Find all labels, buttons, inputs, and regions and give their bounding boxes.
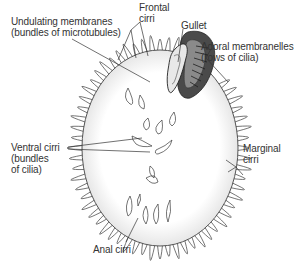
ciliate-illustration [0,0,301,261]
label-line: Gullet [181,20,207,31]
adoral-membranelles-label: Adoral membranelles (rows of cilia) [201,41,294,63]
ciliate-diagram: Undulating membranes (bundles of microtu… [0,0,301,261]
label-line: (bundles of microtubules) [11,27,121,38]
undulating-membranes-label: Undulating membranes (bundles of microtu… [11,16,121,38]
label-line: Ventral cirri [11,142,60,153]
label-line: Adoral membranelles [201,41,294,52]
anal-cirri-label: Anal cirri [93,244,131,255]
label-line: Anal cirri [93,244,131,255]
gullet-label: Gullet [181,20,207,31]
label-line: Frontal [139,2,169,13]
label-line: Marginal [243,143,281,154]
label-line: (rows of cilia) [201,52,294,63]
label-line: of cilia) [11,164,60,175]
marginal-cirri-label: Marginal cirri [243,143,281,165]
frontal-cirri-label: Frontal cirri [139,2,169,24]
label-line: (bundles [11,153,60,164]
label-line: Undulating membranes [11,16,121,27]
ventral-cirri-label: Ventral cirri (bundles of cilia) [11,142,60,175]
label-line: cirri [243,154,281,165]
label-line: cirri [139,13,169,24]
